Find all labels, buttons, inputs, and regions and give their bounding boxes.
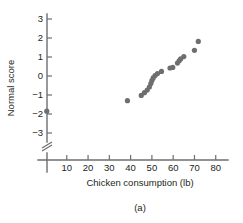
figure-container: 3210−1−2−3 1020304050607080 Normal score…: [0, 0, 243, 223]
x-tick-label: 40: [125, 162, 136, 173]
scatter-point: [192, 48, 197, 53]
y-axis-tick-labels: 3210−1−2−3: [32, 13, 43, 138]
x-axis-ticks: [67, 155, 216, 160]
x-tick-label: 80: [210, 162, 221, 173]
scatter-point: [170, 65, 175, 70]
x-axis-title: Chicken consumption (lb): [86, 177, 193, 188]
scatter-point: [44, 109, 49, 114]
x-tick-label: 60: [168, 162, 179, 173]
scatter-point: [159, 69, 164, 74]
x-tick-label: 10: [61, 162, 72, 173]
y-tick-label: −2: [32, 108, 43, 119]
scatter-point: [196, 39, 201, 44]
normal-probability-plot: 3210−1−2−3 1020304050607080 Normal score…: [0, 0, 243, 223]
figure-caption: (a): [134, 202, 146, 213]
y-tick-label: 3: [38, 13, 43, 24]
axis-break-icon: [42, 142, 52, 151]
y-axis-ticks: [47, 19, 52, 133]
scatter-point: [181, 54, 186, 59]
x-tick-label: 70: [189, 162, 200, 173]
x-tick-label: 50: [147, 162, 158, 173]
y-axis-title: Normal score: [5, 60, 16, 117]
y-tick-label: 0: [38, 70, 43, 81]
y-tick-label: 1: [38, 51, 43, 62]
y-tick-label: −1: [32, 89, 43, 100]
x-axis-tick-labels: 1020304050607080: [61, 162, 221, 173]
y-tick-label: 2: [38, 32, 43, 43]
data-points: [44, 39, 201, 114]
x-tick-label: 30: [104, 162, 115, 173]
y-tick-label: −3: [32, 127, 43, 138]
scatter-point: [125, 98, 130, 103]
x-tick-label: 20: [83, 162, 94, 173]
